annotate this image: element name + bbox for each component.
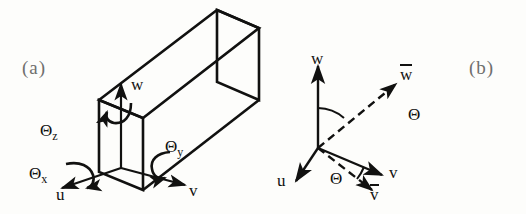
theta-upper-arc — [318, 108, 344, 118]
theta-lower-arc — [357, 167, 364, 179]
theta-z-curl — [106, 103, 131, 123]
panel-a-theta-z: Θz — [40, 122, 58, 139]
panel-a-box — [99, 10, 259, 190]
figure-canvas: (a) w u v Θz Θx Θy (b) w u v w v Θ Θ — [0, 0, 526, 214]
axis-b-v-line — [318, 148, 382, 175]
theta-y-subscript: y — [177, 145, 183, 159]
panel-b-caption: (b) — [469, 58, 494, 77]
v-bar-glyph: v — [370, 184, 379, 203]
panel-b-axis-label-v-bar: v — [370, 184, 379, 203]
panel-b-axis-label-w-bar: w — [400, 64, 412, 83]
box-bottom-long-edge — [143, 100, 259, 190]
figure-vector-layer — [0, 0, 526, 214]
panel-b-axis-label-u: u — [277, 172, 286, 189]
panel-b-theta-lower: Θ — [330, 170, 342, 187]
panel-a-axis-label-v: v — [189, 182, 198, 199]
theta-x-subscript: x — [41, 172, 47, 186]
panel-b-axis-label-v: v — [389, 164, 398, 181]
panel-a-theta-x: Θx — [29, 165, 47, 182]
theta-z-subscript: z — [52, 129, 57, 143]
panel-b-axis-label-w: w — [311, 50, 323, 67]
theta-x-symbol: Θ — [29, 164, 41, 183]
panel-a-axis-label-u: u — [56, 186, 65, 203]
theta-y-symbol: Θ — [165, 137, 177, 156]
theta-z-symbol: Θ — [40, 121, 52, 140]
panel-a-axis-label-w: w — [131, 76, 143, 93]
axis-b-u-stroke — [296, 148, 318, 181]
panel-a-theta-y: Θy — [165, 138, 183, 155]
panel-a-caption: (a) — [22, 58, 46, 77]
panel-b-axes — [296, 66, 396, 190]
w-bar-glyph: w — [400, 64, 412, 83]
box-top-face — [99, 10, 259, 118]
axis-b-w-bar-line — [318, 84, 396, 148]
panel-b-theta-upper: Θ — [408, 106, 420, 123]
